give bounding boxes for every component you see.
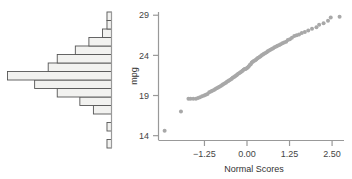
qq-x-tick-label: −1.25 bbox=[193, 149, 216, 159]
qq-data-point bbox=[179, 110, 183, 114]
histogram-bar bbox=[107, 21, 112, 30]
qq-y-tick-label: 29 bbox=[139, 10, 149, 20]
qq-data-point bbox=[329, 16, 333, 20]
qq-data-point bbox=[303, 30, 307, 34]
histogram-bar bbox=[35, 80, 112, 89]
qq-data-points bbox=[163, 15, 342, 133]
qq-y-ticks bbox=[153, 15, 159, 135]
histogram-bar bbox=[8, 72, 112, 81]
histogram-bars bbox=[8, 12, 112, 148]
histogram-bar bbox=[107, 123, 112, 132]
qq-x-tick-label: 1.25 bbox=[281, 149, 299, 159]
qq-x-axis-title: Normal Scores bbox=[224, 164, 284, 174]
histogram-bar bbox=[102, 29, 111, 38]
qq-y-tick-label: 14 bbox=[139, 131, 149, 141]
qq-y-axis-title: mpg bbox=[129, 67, 139, 85]
qq-data-point bbox=[310, 27, 314, 31]
histogram-svg bbox=[0, 0, 132, 179]
histogram-bar bbox=[93, 106, 111, 115]
qq-data-point bbox=[317, 23, 321, 27]
qq-y-tick-labels: 14192429 bbox=[139, 10, 149, 140]
qq-data-point bbox=[306, 28, 310, 32]
histogram-bar bbox=[107, 140, 112, 149]
qq-plot-panel: 14192429 −1.250.001.252.50 mpg Normal Sc… bbox=[126, 0, 352, 179]
statistics-figure: 14192429 −1.250.001.252.50 mpg Normal Sc… bbox=[0, 0, 352, 179]
qq-x-tick-labels: −1.250.001.252.50 bbox=[193, 149, 341, 159]
histogram-bar bbox=[89, 38, 112, 47]
histogram-bar bbox=[107, 12, 112, 21]
histogram-panel bbox=[0, 0, 132, 179]
qq-data-point bbox=[338, 15, 342, 19]
qq-data-point bbox=[322, 21, 326, 25]
qq-y-tick-label: 19 bbox=[139, 91, 149, 101]
qq-y-tick-label: 24 bbox=[139, 51, 149, 61]
qq-x-ticks bbox=[204, 141, 332, 147]
qq-x-tick-label: 0.00 bbox=[238, 149, 256, 159]
histogram-bar bbox=[80, 97, 112, 106]
qq-data-point bbox=[326, 19, 330, 23]
histogram-bar bbox=[75, 46, 111, 55]
histogram-bar bbox=[57, 55, 111, 64]
qq-plot-svg: 14192429 −1.250.001.252.50 mpg Normal Sc… bbox=[126, 0, 352, 179]
histogram-bar bbox=[48, 63, 111, 72]
qq-x-tick-label: 2.50 bbox=[323, 149, 341, 159]
histogram-bar bbox=[57, 89, 111, 98]
qq-data-point bbox=[163, 129, 167, 133]
